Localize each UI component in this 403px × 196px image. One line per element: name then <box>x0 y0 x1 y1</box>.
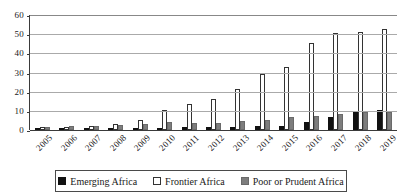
x-tick-label: 2009 <box>132 132 152 152</box>
filled-gray-square-icon <box>241 177 249 185</box>
gridline <box>30 15 397 16</box>
x-tick-label: 2006 <box>59 132 79 152</box>
plot-wrapper: 0102030405060 20052006200720082009201020… <box>0 0 403 140</box>
gridline <box>30 92 397 93</box>
legend-item[interactable]: Frontier Africa <box>153 176 225 187</box>
legend-item-label: Poor or Prudent Africa <box>253 176 344 187</box>
y-tick-label: 20 <box>15 87 24 96</box>
y-tick-mark <box>27 35 30 36</box>
y-tick-label: 50 <box>15 30 24 39</box>
filled-black-square-icon <box>58 177 66 185</box>
x-axis-cell: 2019 <box>372 132 397 164</box>
x-tick-label: 2014 <box>255 132 275 152</box>
x-axis-cell: 2005 <box>29 132 54 164</box>
legend-item[interactable]: Emerging Africa <box>58 176 137 187</box>
y-tick-mark <box>27 112 30 113</box>
x-axis-cell: 2016 <box>299 132 324 164</box>
bar[interactable] <box>216 123 221 130</box>
bar[interactable] <box>192 123 197 130</box>
bar[interactable] <box>338 114 343 130</box>
x-tick-label: 2015 <box>280 132 300 152</box>
y-axis: 0102030405060 <box>0 0 26 140</box>
x-axis-cell: 2017 <box>323 132 348 164</box>
legend-item[interactable]: Poor or Prudent Africa <box>241 176 344 187</box>
outlined-white-square-icon <box>153 177 161 185</box>
bar[interactable] <box>167 122 172 130</box>
x-tick-label: 2019 <box>378 132 398 152</box>
bar[interactable] <box>265 120 270 130</box>
bar[interactable] <box>387 112 392 130</box>
x-axis-cell: 2018 <box>348 132 373 164</box>
y-tick-label: 40 <box>15 49 24 58</box>
x-axis-cell: 2010 <box>152 132 177 164</box>
plot-area <box>29 15 397 130</box>
bar[interactable] <box>314 116 319 130</box>
x-tick-label: 2010 <box>157 132 177 152</box>
x-axis-cell: 2014 <box>250 132 275 164</box>
bar-chart: 0102030405060 20052006200720082009201020… <box>0 0 403 196</box>
y-tick-label: 0 <box>19 126 24 135</box>
chart-legend: Emerging AfricaFrontier AfricaPoor or Pr… <box>55 170 347 192</box>
bar[interactable] <box>363 112 368 130</box>
y-tick-label: 10 <box>15 106 24 115</box>
x-tick-label: 2018 <box>353 132 373 152</box>
x-axis-cell: 2008 <box>103 132 128 164</box>
x-tick-label: 2017 <box>329 132 349 152</box>
gridline <box>30 111 397 112</box>
bar[interactable] <box>289 117 294 130</box>
x-axis-cell: 2015 <box>274 132 299 164</box>
x-axis-cell: 2011 <box>176 132 201 164</box>
y-tick-mark <box>27 74 30 75</box>
gridline <box>30 130 397 131</box>
x-axis-cell: 2009 <box>127 132 152 164</box>
x-tick-label: 2013 <box>230 132 250 152</box>
gridline <box>30 73 397 74</box>
y-tick-mark <box>27 93 30 94</box>
x-tick-label: 2011 <box>181 133 201 153</box>
x-axis-cell: 2013 <box>225 132 250 164</box>
y-tick-label: 60 <box>15 11 24 20</box>
x-axis-cell: 2012 <box>201 132 226 164</box>
x-axis: 2005200620072008200920102011201220132014… <box>29 132 397 164</box>
x-tick-label: 2008 <box>108 132 128 152</box>
bar[interactable] <box>240 121 245 130</box>
gridline <box>30 53 397 54</box>
x-tick-label: 2016 <box>304 132 324 152</box>
x-tick-label: 2007 <box>83 132 103 152</box>
x-axis-cell: 2007 <box>78 132 103 164</box>
legend-item-label: Frontier Africa <box>165 176 225 187</box>
x-tick-label: 2012 <box>206 132 226 152</box>
y-tick-label: 30 <box>15 68 24 77</box>
y-tick-mark <box>27 16 30 17</box>
gridline <box>30 34 397 35</box>
x-tick-label: 2005 <box>34 132 54 152</box>
x-axis-cell: 2006 <box>54 132 79 164</box>
legend-item-label: Emerging Africa <box>70 176 137 187</box>
y-tick-mark <box>27 54 30 55</box>
